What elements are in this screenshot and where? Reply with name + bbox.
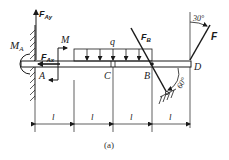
label-c: C [104,70,111,81]
label-ma: MA [9,39,24,53]
figure-caption: (a) [104,140,114,150]
dimension-label-3: l [130,112,133,122]
label-fay: FAy [39,9,53,20]
label-b: B [144,70,150,81]
dimension-label-4: l [169,112,172,122]
dimension-label-1: l [52,112,55,122]
label-fb: FB [141,32,152,43]
beam-free-body-diagram: MA FAy FAx A M q C FB B [0,0,229,160]
label-q: q [110,36,115,47]
pin-b [150,62,154,66]
dimension-label-2: l [91,112,94,122]
force-f-arrow [190,25,210,60]
distributed-load-q [74,49,152,61]
label-60: 60° [175,75,189,90]
label-30: 30° [192,14,205,23]
label-m: M [60,34,70,45]
label-d: D [193,61,202,72]
label-a: A [38,70,46,81]
label-fax: FAx [41,52,55,63]
label-f: F [211,31,218,42]
ground-support [159,89,176,104]
